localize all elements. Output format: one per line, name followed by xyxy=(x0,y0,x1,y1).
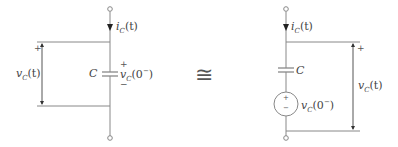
left-circuit xyxy=(37,7,118,141)
right-voltage-label: vC(t) xyxy=(358,80,383,94)
source-plus: + xyxy=(283,95,289,102)
source-label: vC(0−) xyxy=(301,99,334,114)
right-current-label: iC(t) xyxy=(291,21,313,35)
right-bottom-terminal xyxy=(284,136,289,141)
left-current-label: iC(t) xyxy=(116,21,138,35)
right-capacitor-label: C xyxy=(296,65,304,76)
left-voltage-plus: + xyxy=(34,44,42,53)
left-cap-minus: − xyxy=(120,80,128,89)
right-circuit xyxy=(274,7,360,141)
source-minus: − xyxy=(283,105,289,112)
left-current-arrow-icon xyxy=(107,24,113,31)
left-voltage-label: vC(t) xyxy=(16,68,41,82)
right-voltage-plus: + xyxy=(357,44,365,53)
left-top-terminal xyxy=(108,7,113,12)
left-capacitor-label: C xyxy=(89,68,97,79)
left-bottom-terminal xyxy=(108,136,113,141)
equivalence-symbol: ≅ xyxy=(195,64,213,86)
right-current-arrow-icon xyxy=(283,24,289,31)
right-top-terminal xyxy=(284,7,289,12)
